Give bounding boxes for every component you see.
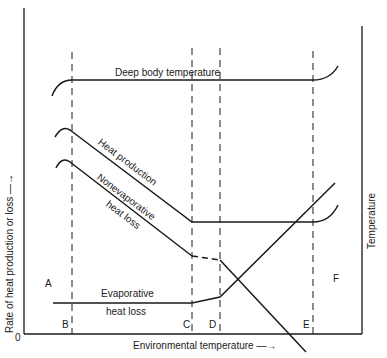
x-axis-label: Environmental temperature —→ — [133, 341, 276, 351]
evaporative-heat-loss-label: heat loss — [106, 307, 146, 317]
zone-label-b: B — [62, 320, 69, 330]
zone-label-d: D — [209, 320, 216, 330]
zone-label-c: C — [183, 320, 190, 330]
y-axis-left-label: Rate of heat production or loss —→ — [5, 174, 15, 333]
y-axis-right-label: Temperature — [367, 193, 377, 249]
origin-label: 0 — [15, 333, 21, 343]
axes — [24, 8, 362, 334]
evaporative-heat-loss-curve — [53, 183, 335, 303]
zone-label-e: E — [303, 320, 310, 330]
zone-label-f: F — [333, 274, 339, 284]
nonevaporative-dashed-segment — [192, 256, 220, 260]
curves — [52, 66, 338, 352]
thermoregulation-diagram — [0, 0, 387, 358]
deep-body-temperature-label: Deep body temperature — [115, 68, 220, 78]
nonevaporative-heat-loss-continued — [220, 260, 306, 352]
evaporative-label: Evaporative — [101, 289, 154, 299]
zone-label-a: A — [45, 279, 52, 289]
